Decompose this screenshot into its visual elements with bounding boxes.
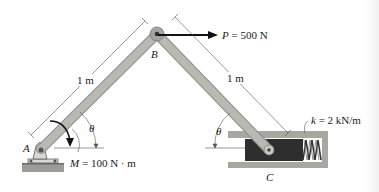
moment-symbol: M: [70, 157, 79, 169]
label-length-AB: 1 m: [77, 75, 94, 86]
force-symbol: P: [222, 29, 229, 41]
label-length-BC: 1 m: [227, 73, 244, 84]
label-spring: k = 2 kN/m: [311, 115, 361, 126]
label-point-B: B: [151, 49, 158, 60]
pin-C: [264, 145, 274, 155]
label-theta-A: θ: [89, 123, 94, 134]
label-point-C: C: [266, 172, 273, 183]
moment-value: = 100 N · m: [79, 157, 136, 169]
label-moment: M = 100 N · m: [70, 158, 136, 169]
label-theta-C: θ: [216, 126, 221, 137]
page-edge-shadow: [365, 0, 379, 192]
mechanism-diagram: [0, 0, 379, 192]
label-point-A: A: [23, 143, 30, 154]
label-force: P = 500 N: [222, 30, 268, 41]
coil-spring-icon: [303, 139, 322, 161]
force-value: = 500 N: [229, 29, 268, 41]
spring-value: = 2 kN/m: [316, 114, 361, 126]
pin-A: [39, 148, 44, 153]
